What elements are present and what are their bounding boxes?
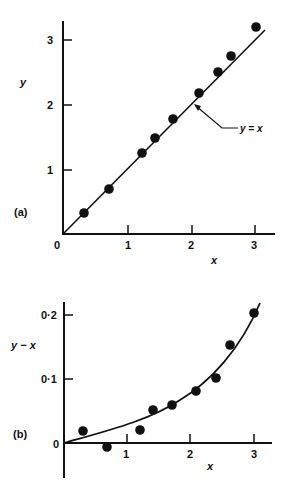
data-point [226,51,236,61]
data-point [79,208,89,218]
data-point [148,405,158,415]
chart-b-ytick-label-0-2: 0·2 [41,309,57,321]
chart-a-ytick-label-3: 3 [47,34,53,46]
chart-b-xlabel: x [206,460,214,472]
data-point [194,88,204,98]
chart-b-ytick-label-0: 0 [53,438,59,450]
panel-label-a: (a) [14,206,28,218]
chart-a-annotation-label: y = x [239,123,263,134]
data-point [104,184,114,194]
chart-a-xlabel: x [210,254,218,266]
data-point [168,114,178,124]
panel-label-b: (b) [13,428,27,440]
chart-a-line-y-equals-x [63,30,265,234]
chart-b-xtick-label-3: 3 [251,448,257,460]
chart-a-ytick-label-1: 1 [47,164,53,176]
chart-b-xtick-label-2: 2 [187,448,193,460]
data-point [150,133,160,143]
data-point [213,67,223,77]
chart-a-xtick-label-2: 2 [188,239,194,251]
data-point [167,400,177,410]
chart-a-ytick-label-2: 2 [47,99,53,111]
chart-a-xtick-label-3: 3 [251,239,257,251]
chart-a-xtick-label-0: 0 [54,239,60,251]
chart-b: 0·2 0·1 0 1 2 3 y − x x (b) [10,302,272,478]
chart-b-fitted-curve [64,303,260,443]
data-point [225,340,235,350]
data-point [137,148,147,158]
chart-a-points [79,22,261,218]
chart-a-xtick-label-1: 1 [125,239,131,251]
figure: 1 2 3 0 1 2 3 y x (a) y = x [0,0,288,492]
data-point [211,373,221,383]
chart-b-xtick-label-1: 1 [123,448,129,460]
chart-b-ylabel: y − x [10,339,37,351]
chart-b-ytick-label-0-1: 0·1 [41,373,57,385]
chart-a-ylabel: y [19,76,27,88]
chart-a-annotation-leader [196,106,238,128]
data-point [78,426,88,436]
chart-a: 1 2 3 0 1 2 3 y x (a) y = x [14,21,275,266]
data-point [251,22,261,32]
data-point [135,425,145,435]
chart-b-points [78,308,259,452]
data-point [249,308,259,318]
data-point [191,386,201,396]
data-point [102,442,112,452]
